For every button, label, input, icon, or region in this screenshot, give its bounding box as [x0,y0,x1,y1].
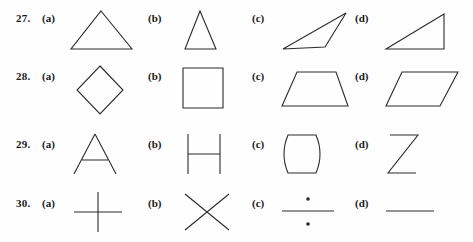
option-label-d: (d) [355,138,368,150]
shape-dot [306,197,310,201]
shape-outline [71,11,132,49]
shape-outline [188,134,220,174]
shape-outline [185,194,229,230]
option-label-b: (b) [148,197,161,209]
exercise-number: 30. [16,197,30,209]
shape-outline [74,192,122,232]
option-label-b: (b) [148,70,161,82]
shape-plus-cross-figure [68,190,130,234]
shape-outline [74,134,116,174]
shape-x-cross-figure [178,190,238,234]
shape-outline [185,11,216,49]
exercise-number: 28. [16,70,30,82]
option-label-c: (c) [252,197,264,209]
shape-trapezoid [278,64,354,116]
exercise-number: 27. [16,12,30,24]
shape-right-triangle [382,8,454,52]
shape-outline [284,135,320,173]
shape-narrow-isosceles-triangle [178,8,226,52]
shape-equilateral-triangle [68,8,138,52]
shape-outline [386,14,444,49]
option-label-d: (d) [355,12,368,24]
shape-outline [77,66,123,114]
option-label-d: (d) [355,197,368,209]
option-label-a: (a) [42,70,55,82]
option-label-b: (b) [148,12,161,24]
option-label-c: (c) [252,12,264,24]
shape-thin-sliver-triangle [278,8,350,52]
shape-outline [388,135,418,173]
option-label-d: (d) [355,70,368,82]
exercise-number: 29. [16,138,30,150]
option-label-a: (a) [42,197,55,209]
shape-barrel-figure [278,130,330,176]
shape-parallelogram [382,64,464,116]
shape-letter-h-figure [178,130,230,176]
shape-outline [183,68,223,108]
option-label-a: (a) [42,138,55,150]
shape-horizontal-line-figure [382,190,444,234]
option-label-a: (a) [42,12,55,24]
shape-dot [306,222,310,226]
shape-outline [283,13,346,49]
shape-outline [386,72,458,106]
shape-letter-a-figure [68,130,128,176]
shape-square [178,64,234,116]
option-label-b: (b) [148,138,161,150]
shape-outline [282,72,348,106]
worksheet-page: 27.(a)(b)(c)(d)28.(a)(b)(c)(d)29.(a)(b)(… [0,0,473,242]
shape-letter-z-figure [382,130,432,176]
option-label-c: (c) [252,138,264,150]
shape-rhombus [68,64,128,116]
shape-division-sign-figure [278,190,340,234]
option-label-c: (c) [252,70,264,82]
